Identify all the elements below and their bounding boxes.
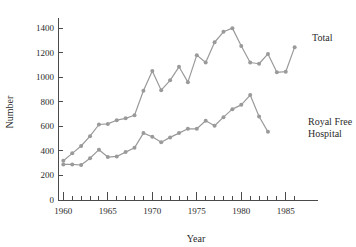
y-axis-title: Number	[4, 95, 15, 128]
series-total	[61, 26, 296, 163]
y-tick-label: 0	[50, 195, 55, 205]
data-point	[106, 122, 110, 126]
data-point	[106, 155, 110, 159]
y-tick-label: 400	[41, 146, 55, 156]
data-point	[195, 53, 199, 57]
y-axis-ticks	[58, 28, 63, 200]
x-tick-label: 1980	[232, 206, 251, 216]
y-tick-label: 200	[41, 170, 55, 180]
chart-container: 0200400600800100012001400 19601965197019…	[0, 0, 356, 247]
data-point	[284, 70, 288, 74]
data-point	[88, 134, 92, 138]
data-point	[248, 93, 252, 97]
data-point	[213, 40, 217, 44]
data-point	[239, 103, 243, 107]
data-point	[61, 159, 65, 163]
series-lines	[61, 26, 296, 167]
data-point	[124, 150, 128, 154]
data-point	[150, 69, 154, 73]
data-point	[97, 123, 101, 127]
y-axis-tick-labels: 0200400600800100012001400	[36, 23, 55, 205]
data-point	[159, 140, 163, 144]
data-point	[186, 127, 190, 131]
x-tick-label: 1960	[54, 206, 73, 216]
data-point	[141, 89, 145, 93]
royal-free-series-label-line2: Hospital	[308, 128, 342, 139]
data-point	[124, 116, 128, 120]
data-point	[204, 61, 208, 65]
data-point	[177, 131, 181, 135]
x-tick-label: 1970	[143, 206, 162, 216]
total-series-label: Total	[312, 32, 333, 43]
y-tick-label: 1400	[36, 23, 55, 33]
y-tick-label: 800	[41, 97, 55, 107]
series-polyline	[63, 28, 294, 161]
data-point	[195, 127, 199, 131]
royal-free-series-label-line1: Royal Free	[308, 116, 353, 127]
data-point	[257, 115, 261, 119]
y-tick-label: 1000	[36, 72, 55, 82]
data-point	[230, 107, 234, 111]
data-point	[293, 45, 297, 49]
x-tick-label: 1985	[277, 206, 296, 216]
data-point	[239, 44, 243, 48]
data-point	[168, 135, 172, 139]
data-point	[70, 151, 74, 155]
data-point	[61, 162, 65, 166]
data-point	[204, 119, 208, 123]
y-tick-label: 600	[41, 121, 55, 131]
data-point	[230, 26, 234, 30]
y-tick-label: 1200	[36, 48, 55, 58]
data-point	[266, 130, 270, 134]
data-point	[70, 162, 74, 166]
data-point	[159, 88, 163, 92]
data-point	[115, 154, 119, 158]
data-point	[213, 124, 217, 128]
x-tick-label: 1965	[99, 206, 118, 216]
data-point	[133, 146, 137, 150]
data-point	[88, 156, 92, 160]
x-axis-ticks	[63, 192, 294, 200]
series-royal-free-hospital	[61, 93, 270, 167]
data-point	[275, 70, 279, 74]
data-point	[168, 78, 172, 82]
data-point	[221, 115, 225, 119]
data-point	[257, 62, 261, 66]
x-tick-label: 1975	[188, 206, 207, 216]
data-point	[186, 80, 190, 84]
data-point	[177, 65, 181, 69]
data-point	[221, 30, 225, 34]
data-point	[133, 113, 137, 117]
data-point	[248, 61, 252, 65]
data-point	[79, 163, 83, 167]
chart-plot-area: 0200400600800100012001400 19601965197019…	[0, 0, 356, 247]
data-point	[141, 131, 145, 135]
x-axis-title: Year	[187, 233, 206, 244]
data-point	[266, 52, 270, 56]
data-point	[115, 118, 119, 122]
x-axis-tick-labels: 196019651970197519801985	[54, 206, 295, 216]
data-point	[97, 148, 101, 152]
data-point	[79, 144, 83, 148]
data-point	[150, 135, 154, 139]
